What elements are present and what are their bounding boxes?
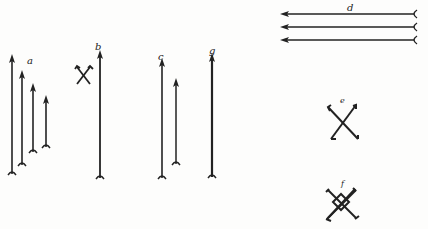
arrow-group-a — [12, 58, 46, 174]
cross-e — [328, 105, 358, 139]
arrow-diagram: a b c g d e f — [0, 0, 428, 229]
cross-b — [75, 66, 93, 84]
label-e: e — [340, 97, 345, 105]
label-c: c — [158, 52, 164, 62]
arrow-group-d — [284, 14, 414, 40]
label-b: b — [95, 42, 101, 52]
label-d: d — [347, 3, 353, 13]
label-a: a — [27, 56, 33, 66]
label-f: f — [341, 180, 344, 188]
cross-f — [326, 188, 359, 221]
diagram-drawing — [0, 0, 428, 229]
label-g: g — [209, 46, 215, 56]
